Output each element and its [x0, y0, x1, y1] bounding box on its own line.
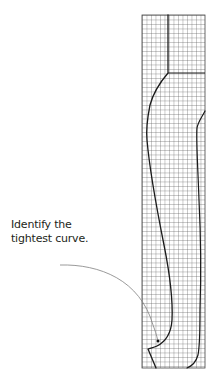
caption-line-2: tightest curve.	[11, 232, 88, 246]
grid	[142, 15, 205, 368]
pointer-dot	[157, 340, 160, 343]
caption: Identify the tightest curve.	[11, 218, 88, 245]
track-diagram	[0, 0, 213, 376]
caption-line-1: Identify the	[11, 218, 88, 232]
